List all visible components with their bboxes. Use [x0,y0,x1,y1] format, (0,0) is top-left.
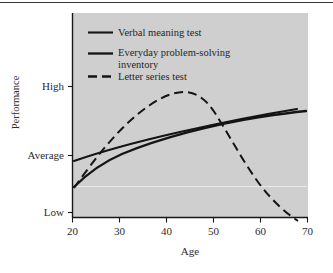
x-axis-ticks [73,218,308,223]
x-tick-label-30: 30 [105,226,134,237]
x-tick-label-40: 40 [152,226,181,237]
legend-label-letter-series: Letter series test [118,71,187,83]
x-tick-label-70: 70 [293,226,322,237]
x-tick-label-20: 20 [58,226,87,237]
y-axis-title: Performance [10,58,21,148]
x-axis-title: Age [72,246,308,257]
series-line-letter-series [74,92,298,221]
x-tick-label-50: 50 [199,226,228,237]
chart-figure: Verbal meaning test Everyday problem-sol… [0,0,333,273]
legend-label-verbal-meaning: Verbal meaning test [118,27,201,39]
y-tick-label-low: Low [0,207,64,218]
y-tick-label-average: Average [0,150,64,161]
legend-label-everyday-problem-solving-line2: inventory [118,59,158,71]
legend-label-everyday-problem-solving: Everyday problem-solving [118,47,230,59]
x-tick-label-60: 60 [246,226,275,237]
